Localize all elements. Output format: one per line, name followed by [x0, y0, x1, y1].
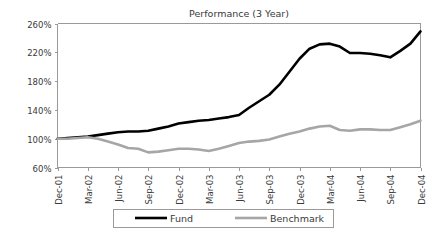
- chart-title: Performance (3 Year): [189, 8, 289, 19]
- y-tick-label: 140%: [27, 106, 51, 116]
- y-tick-label: 180%: [27, 77, 51, 87]
- x-tick-label: Dec-04: [417, 175, 427, 205]
- y-tick-label: 100%: [27, 135, 51, 145]
- x-tick-label: Sep-03: [265, 175, 275, 205]
- y-tick-label: 60%: [33, 164, 52, 174]
- y-tick-label: 260%: [27, 20, 51, 30]
- y-tick-label: 220%: [27, 48, 51, 58]
- x-tick-label: Jun-03: [235, 175, 245, 203]
- x-tick-label: Mar-03: [205, 175, 215, 204]
- x-tick-label: Jun-04: [356, 175, 366, 203]
- performance-chart: Performance (3 Year) 60%100%140%180%220%…: [0, 0, 442, 239]
- x-tick-label: Dec-02: [175, 175, 185, 205]
- x-tick-label: Dec-01: [54, 175, 64, 205]
- x-tick-label: Jun-02: [114, 175, 124, 203]
- x-tick-label: Dec-03: [296, 175, 306, 205]
- x-tick-label: Sep-02: [144, 175, 154, 205]
- chart-canvas: Performance (3 Year) 60%100%140%180%220%…: [0, 0, 442, 239]
- chart-legend: FundBenchmark: [114, 210, 334, 228]
- legend-label-benchmark: Benchmark: [270, 213, 325, 224]
- legend-label-fund: Fund: [170, 213, 193, 224]
- x-tick-label: Mar-02: [84, 175, 94, 204]
- x-tick-label: Sep-04: [386, 175, 396, 205]
- x-tick-label: Mar-04: [326, 175, 336, 204]
